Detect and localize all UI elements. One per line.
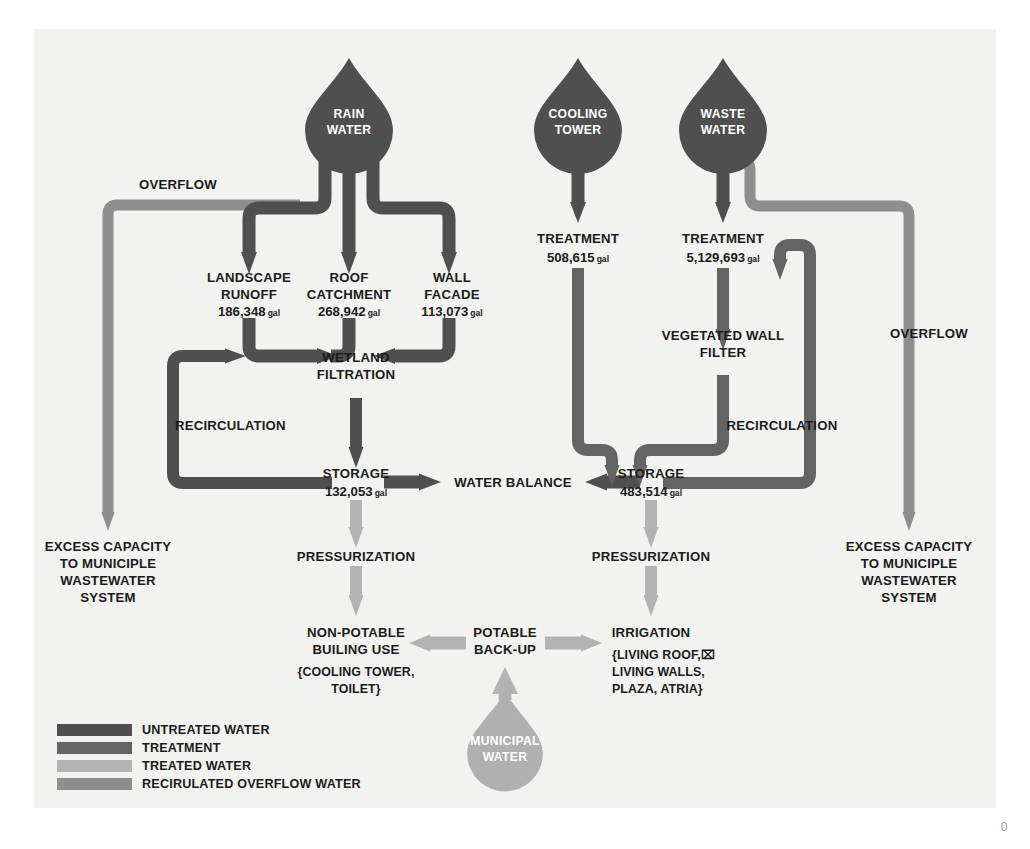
label-nonpotable-line4: TOILET}: [331, 682, 380, 696]
label-roof-catchment-line1: ROOF: [330, 270, 369, 285]
node-excess-capacity-right: EXCESS CAPACITY TO MUNICIPLE WASTEWATER …: [846, 539, 973, 605]
legend-item-treatment: TREATMENT: [57, 741, 221, 755]
flow-recirculation-left: [173, 349, 332, 484]
label-nonpotable-line2: BUILING USE: [312, 642, 399, 657]
label-wall-facade-line1: WALL: [433, 270, 471, 285]
node-treatment-cooling: TREATMENT 508,615gal: [537, 231, 619, 265]
source-droplet-municipal-water: MUNICIPAL WATER: [467, 692, 543, 792]
label-nonpotable-line3: {COOLING TOWER,: [298, 665, 415, 679]
droplet-label-municipal-line1: MUNICIPAL: [470, 734, 540, 748]
flow-cooling-treatment-to-storage: [578, 268, 620, 486]
droplet-label-rain-line1: RAIN: [334, 107, 365, 121]
label-excess-right-line3: WASTEWATER: [861, 573, 957, 588]
label-excess-left-line3: WASTEWATER: [60, 573, 156, 588]
value-roof-catchment: 268,942gal: [318, 304, 380, 319]
label-excess-right-line2: TO MUNICIPLE: [861, 556, 958, 571]
label-storage-left: STORAGE: [323, 466, 389, 481]
label-pressurization-left: PRESSURIZATION: [297, 549, 415, 564]
label-storage-right: STORAGE: [618, 466, 684, 481]
flow-wetland-to-storage-left: [349, 398, 364, 468]
flow-overflow-right: [740, 160, 916, 531]
node-irrigation: IRRIGATION {LIVING ROOF,⌧ LIVING WALLS, …: [612, 625, 715, 696]
flow-potable-to-irrigation: [545, 635, 602, 652]
droplet-label-waste-line1: WASTE: [701, 107, 746, 121]
water-flow-diagram: RAIN WATER COOLING TOWER WASTE WATER MUN…: [0, 0, 1030, 849]
node-treatment-waste: TREATMENT 5,129,693gal: [682, 231, 764, 265]
flow-potable-to-nonpotable: [409, 635, 466, 652]
label-wetland-filtration-line1: WETLAND: [322, 350, 389, 365]
label-vegwall-line1: VEGETATED WALL: [662, 328, 784, 343]
flow-storage-left-to-balance: [384, 474, 441, 491]
legend-label-treated-water: TREATED WATER: [142, 759, 251, 773]
label-wall-facade-line2: FACADE: [424, 287, 479, 302]
legend-label-untreated-water: UNTREATED WATER: [142, 723, 270, 737]
label-irrigation-line2: {LIVING ROOF,⌧: [612, 648, 715, 662]
diagram-canvas: RAIN WATER COOLING TOWER WASTE WATER MUN…: [0, 0, 1030, 849]
label-nonpotable-line1: NON-POTABLE: [307, 625, 405, 640]
node-storage-left: STORAGE 132,053gal: [323, 466, 389, 499]
node-wetland-filtration: WETLAND FILTRATION: [317, 350, 395, 382]
node-landscape-runoff: LANDSCAPE RUNOFF 186,348gal: [207, 270, 291, 319]
flow-pressurization-right-to-irrigation: [644, 566, 659, 616]
label-excess-right-line1: EXCESS CAPACITY: [846, 539, 973, 554]
label-wetland-filtration-line2: FILTRATION: [317, 367, 395, 382]
label-excess-right-line4: SYSTEM: [881, 590, 936, 605]
legend-swatch-recirculated-overflow-water: [57, 778, 132, 790]
source-droplet-rain-water: RAIN WATER: [305, 58, 393, 174]
source-droplet-waste-water: WASTE WATER: [679, 58, 767, 174]
label-irrigation-line4: PLAZA, ATRIA}: [612, 682, 703, 696]
droplet-label-rain-line2: WATER: [327, 123, 372, 137]
legend-swatch-untreated-water: [57, 724, 132, 736]
flow-storage-right-to-pressurization: [644, 500, 659, 548]
label-overflow-left: OVERFLOW: [139, 177, 217, 192]
legend: UNTREATED WATER TREATMENT TREATED WATER …: [57, 723, 361, 791]
label-treatment-cooling: TREATMENT: [537, 231, 619, 246]
page-number: 0: [1001, 820, 1008, 834]
value-treatment-cooling: 508,615gal: [547, 250, 609, 265]
label-vegwall-line2: FILTER: [700, 345, 747, 360]
legend-item-treated-water: TREATED WATER: [57, 759, 251, 773]
label-excess-left-line1: EXCESS CAPACITY: [45, 539, 172, 554]
flow-storage-left-to-pressurization: [349, 500, 364, 548]
legend-swatch-treated-water: [57, 760, 132, 772]
legend-item-untreated-water: UNTREATED WATER: [57, 723, 270, 737]
label-roof-catchment-line2: CATCHMENT: [307, 287, 391, 302]
droplet-label-cooling-line2: TOWER: [555, 123, 602, 137]
value-wall-facade: 113,073gal: [421, 304, 482, 319]
label-landscape-runoff-line2: RUNOFF: [221, 287, 277, 302]
value-storage-left: 132,053gal: [325, 484, 387, 499]
node-roof-catchment: ROOF CATCHMENT 268,942gal: [307, 270, 391, 319]
droplet-label-waste-line2: WATER: [701, 123, 746, 137]
flow-pressurization-left-to-nonpotable: [349, 566, 364, 616]
label-treatment-waste: TREATMENT: [682, 231, 764, 246]
label-overflow-right: OVERFLOW: [890, 326, 968, 341]
legend-item-recirculated-overflow-water: RECIRULATED OVERFLOW WATER: [57, 777, 361, 791]
node-non-potable-building-use: NON-POTABLE BUILING USE {COOLING TOWER, …: [298, 625, 415, 696]
legend-swatch-treatment: [57, 742, 132, 754]
label-irrigation-line1: IRRIGATION: [612, 625, 691, 640]
label-recirculation-left: RECIRCULATION: [175, 418, 286, 433]
source-droplet-cooling-tower: COOLING TOWER: [534, 58, 622, 174]
label-water-balance: WATER BALANCE: [454, 475, 571, 490]
node-excess-capacity-left: EXCESS CAPACITY TO MUNICIPLE WASTEWATER …: [45, 539, 172, 605]
label-excess-left-line4: SYSTEM: [80, 590, 135, 605]
label-landscape-runoff-line1: LANDSCAPE: [207, 270, 291, 285]
droplet-label-cooling-line1: COOLING: [549, 107, 608, 121]
label-excess-left-line2: TO MUNICIPLE: [60, 556, 157, 571]
value-landscape-runoff: 186,348gal: [218, 304, 280, 319]
label-potable-backup-line2: BACK-UP: [474, 642, 536, 657]
legend-label-recirculated-overflow-water: RECIRULATED OVERFLOW WATER: [142, 777, 361, 791]
node-wall-facade: WALL FACADE 113,073gal: [421, 270, 482, 319]
value-treatment-waste: 5,129,693gal: [686, 250, 759, 265]
label-recirculation-right: RECIRCULATION: [727, 418, 838, 433]
legend-label-treatment: TREATMENT: [142, 741, 221, 755]
droplet-label-municipal-line2: WATER: [483, 750, 528, 764]
label-potable-backup-line1: POTABLE: [473, 625, 536, 640]
label-irrigation-line3: LIVING WALLS,: [612, 665, 705, 679]
node-potable-backup: POTABLE BACK-UP: [473, 625, 536, 657]
label-pressurization-right: PRESSURIZATION: [592, 549, 710, 564]
